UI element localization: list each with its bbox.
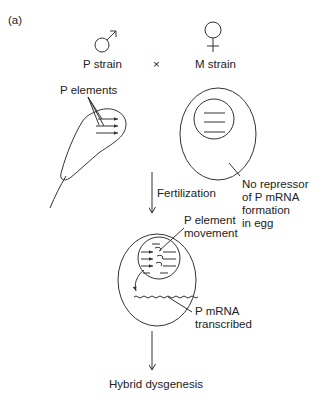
p-elements-label: P elements xyxy=(60,84,117,97)
no-repressor-label: No repressor of P mRNA formation in egg xyxy=(242,178,308,230)
zygote-cell xyxy=(118,228,198,326)
sperm-cell xyxy=(50,97,126,208)
p-strain-label: P strain xyxy=(83,58,122,71)
cross-operator: × xyxy=(153,58,160,71)
male-symbol-icon xyxy=(95,31,116,52)
egg-cell xyxy=(180,88,256,180)
hybrid-dysgenesis-label: Hybrid dysgenesis xyxy=(109,378,203,391)
p-element-movement-label: P element movement xyxy=(184,214,238,240)
panel-label: (a) xyxy=(8,14,22,27)
p-mrna-transcribed-label: P mRNA transcribed xyxy=(195,305,252,331)
female-symbol-icon xyxy=(205,22,221,52)
fertilization-label: Fertilization xyxy=(157,187,216,200)
m-strain-label: M strain xyxy=(195,58,236,71)
